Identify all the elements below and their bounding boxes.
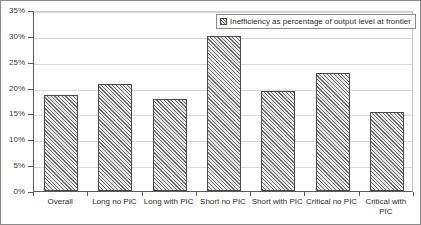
x-axis-tick-label: Critical with PIC [359, 197, 413, 217]
bar-slot [143, 12, 197, 191]
bar-slot [197, 12, 251, 191]
x-axis-tick-mark [33, 192, 34, 196]
x-axis-tick-label: Overall [33, 197, 87, 207]
legend-label: Inefficiency as percentage of output lev… [230, 17, 411, 26]
bar[interactable] [153, 99, 187, 191]
bar-chart: Inefficiency as percentage of output lev… [0, 0, 421, 225]
y-axis-tick-label: 30% [0, 33, 25, 41]
bar[interactable] [261, 91, 295, 191]
x-axis-tick-label: Critical no PIC [304, 197, 358, 207]
y-axis-tick-mark [28, 89, 33, 90]
plot-area [33, 11, 413, 192]
bars-layer [34, 12, 412, 191]
bar[interactable] [44, 95, 78, 191]
y-axis-tick-mark [28, 37, 33, 38]
y-axis-tick-mark [28, 166, 33, 167]
bar[interactable] [316, 73, 350, 191]
x-axis-tick-label: Long with PIC [142, 197, 196, 207]
y-axis-tick-mark [28, 11, 33, 12]
y-axis-tick-label: 10% [0, 136, 25, 144]
y-axis-tick-label: 20% [0, 85, 25, 93]
y-axis-tick-label: 35% [0, 7, 25, 15]
x-axis-tick-label: Short no PIC [196, 197, 250, 207]
y-axis-tick-label: 15% [0, 110, 25, 118]
x-axis-tick-mark [87, 192, 88, 196]
chart-legend: Inefficiency as percentage of output lev… [216, 14, 416, 29]
bar[interactable] [207, 36, 241, 191]
x-axis-tick-mark [304, 192, 305, 196]
bar-slot [305, 12, 359, 191]
y-axis-tick-label: 0% [0, 188, 25, 196]
bar[interactable] [98, 84, 132, 191]
y-axis-tick-mark [28, 63, 33, 64]
bar-slot [360, 12, 414, 191]
x-axis-tick-label: Long no PIC [87, 197, 141, 207]
x-axis-tick-mark [359, 192, 360, 196]
legend-swatch-icon [220, 18, 227, 25]
y-axis-tick-mark [28, 114, 33, 115]
bar-slot [34, 12, 88, 191]
x-axis-tick-label: Short with PIC [250, 197, 304, 207]
x-axis-tick-mark [250, 192, 251, 196]
x-axis-tick-mark [196, 192, 197, 196]
x-axis-tick-mark [142, 192, 143, 196]
bar-slot [88, 12, 142, 191]
y-axis-tick-label: 25% [0, 59, 25, 67]
x-axis-tick-mark [413, 192, 414, 196]
bar[interactable] [370, 112, 404, 191]
bar-slot [251, 12, 305, 191]
y-axis-tick-label: 5% [0, 162, 25, 170]
y-axis-tick-mark [28, 140, 33, 141]
